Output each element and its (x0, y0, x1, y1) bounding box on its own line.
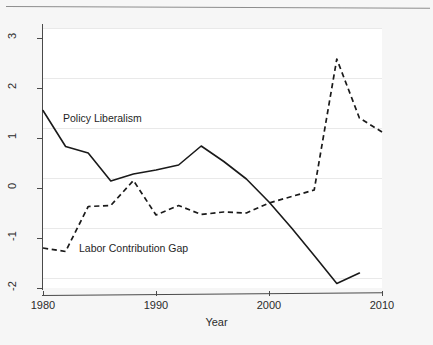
series-layer (0, 10, 433, 345)
chart-figure: -2-10123 1980199020002010 Policy Liberal… (0, 10, 433, 345)
series-line-labor-contribution-gap (43, 59, 382, 252)
series-label-labor-contribution-gap: Labor Contribution Gap (79, 242, 188, 254)
x-axis-title: Year (0, 316, 433, 328)
series-line-policy-liberalism (43, 111, 359, 284)
series-label-policy-liberalism: Policy Liberalism (63, 112, 142, 124)
header-divider (6, 6, 430, 9)
figure-root: -2-10123 1980199020002010 Policy Liberal… (0, 0, 433, 345)
